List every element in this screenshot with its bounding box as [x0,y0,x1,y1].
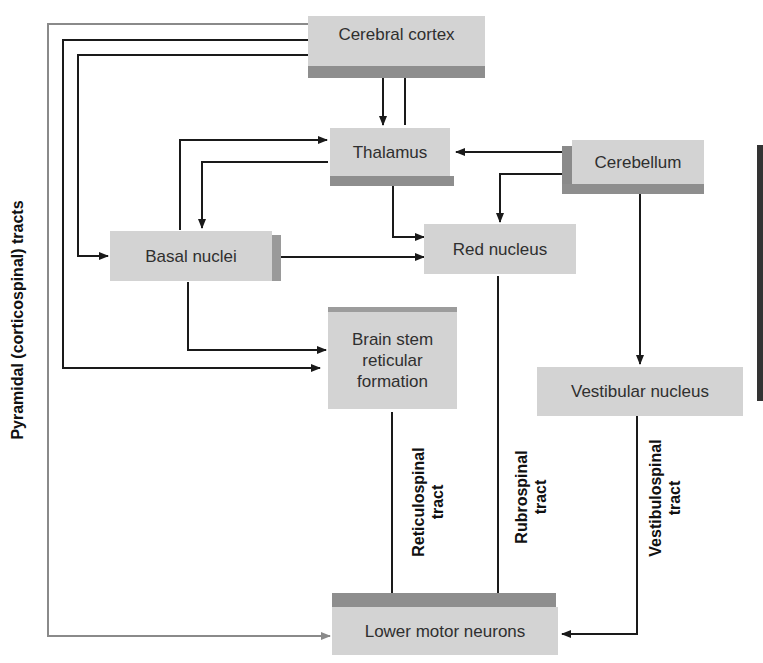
label-rubrospinal-tract: Rubrospinal tract [512,447,550,547]
node-brain-stem-reticular-formation: Brain stem reticular formation [328,312,457,409]
node-vestibular-nucleus: Vestibular nucleus [537,367,743,416]
node-basal-nuclei: Basal nuclei [110,231,272,281]
label-reticulospinal-tract: Reticulospinal tract [409,442,447,562]
node-cerebellum: Cerebellum [572,140,704,184]
node-red-nucleus: Red nucleus [424,224,576,274]
cortex-to-basal-line [63,40,320,368]
thalamus-to-red-line [393,186,424,237]
label-pyramidal-tracts: Pyramidal (corticospinal) tracts [8,190,28,450]
node-lower-motor-neurons: Lower motor neurons [332,607,558,655]
thalamus-to-basal-line [202,162,328,228]
vestibulospinal-line [562,416,637,634]
label-vestibulospinal-tract: Vestibulospinal tract [646,431,684,565]
basal-to-brainstem-line [188,282,326,350]
cortex-to-brainstem-line [78,55,308,256]
motor-pathways-diagram: Cerebral cortex Thalamus Cerebellum Basa… [0,0,763,663]
node-thalamus: Thalamus [330,128,450,176]
page-edge-bar [757,145,763,401]
node-cerebral-cortex: Cerebral cortex [308,16,485,66]
